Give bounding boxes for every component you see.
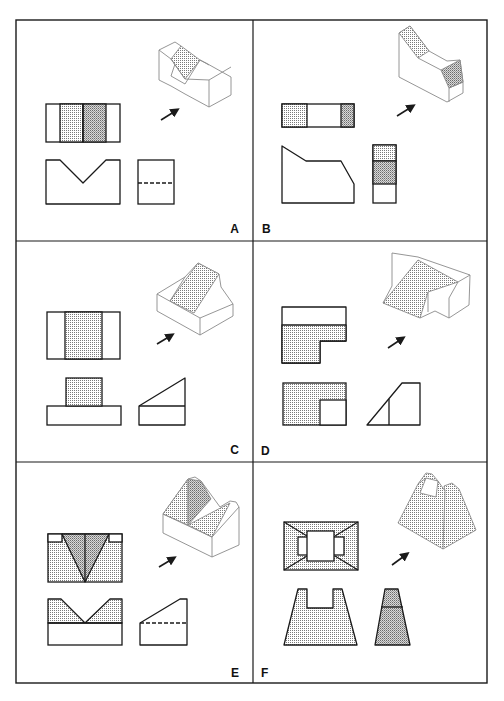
top-view	[46, 104, 120, 142]
front-view	[48, 599, 122, 645]
outline-polygon	[367, 383, 420, 425]
front-view	[283, 383, 346, 425]
panel-label: C	[230, 443, 239, 457]
arrow	[157, 335, 172, 344]
front-view	[46, 160, 120, 204]
outline-rect	[47, 406, 121, 425]
outline-polygon	[282, 146, 354, 203]
direction-arrow-icon	[397, 106, 413, 116]
outline-rect	[65, 312, 102, 359]
outline-rect	[83, 104, 106, 142]
outline-polygon	[163, 479, 188, 525]
front-view	[284, 589, 357, 645]
outline-rect	[373, 145, 396, 161]
outline-rect	[48, 534, 62, 542]
panel-c: C	[47, 263, 239, 457]
outline-polygon	[46, 160, 120, 204]
outline-polygon	[284, 589, 357, 645]
outline-polygon	[375, 589, 410, 645]
outline-polygon	[140, 599, 187, 645]
panel-e: E	[48, 477, 239, 680]
isometric-view	[163, 477, 239, 557]
outline-polygon	[399, 26, 429, 58]
side-view	[373, 145, 396, 203]
isometric-view	[159, 42, 231, 107]
panel-a: A	[46, 42, 239, 236]
outline-rect	[109, 534, 122, 542]
panel-d: D	[261, 253, 470, 458]
side-view	[138, 160, 174, 204]
panel-label: B	[262, 222, 271, 236]
top-view	[282, 307, 346, 363]
arrow	[159, 558, 174, 567]
top-view	[284, 522, 358, 570]
arrow	[392, 554, 407, 565]
panel-label: A	[230, 222, 239, 236]
top-view	[282, 104, 354, 127]
direction-arrow-icon	[161, 110, 177, 120]
panel-f: F	[261, 473, 476, 680]
front-view	[282, 146, 354, 203]
outline-rect	[341, 104, 354, 127]
outline-rect	[373, 161, 396, 184]
edge-line	[159, 50, 171, 59]
edge-line	[209, 67, 231, 80]
direction-arrow-icon	[388, 338, 403, 348]
outline-rect	[48, 623, 122, 645]
outline-polygon	[159, 42, 231, 107]
edge-line	[458, 275, 470, 282]
isometric-view	[398, 473, 476, 549]
direction-arrow-icon	[392, 554, 407, 565]
edge-line	[200, 60, 209, 65]
outline-rect	[320, 400, 346, 425]
outline-polygon	[48, 599, 122, 623]
outline-rect	[66, 378, 102, 406]
arrow	[161, 110, 177, 120]
outline-polygon	[139, 378, 185, 425]
panel-label: E	[231, 666, 239, 680]
outline-rect	[138, 160, 174, 204]
top-view	[48, 534, 122, 582]
front-view	[47, 378, 121, 425]
direction-arrow-icon	[157, 335, 172, 344]
panel-label: F	[261, 666, 268, 680]
isometric-view	[399, 26, 463, 102]
edge-line	[185, 79, 209, 80]
outline-rect	[282, 104, 307, 127]
outline-rect	[60, 104, 83, 142]
side-view	[375, 589, 410, 645]
side-view	[140, 599, 187, 645]
direction-arrow-icon	[159, 558, 174, 567]
orthographic-projection-sheet: ABCDEF	[0, 0, 504, 701]
outline-polygon	[282, 325, 346, 363]
panels: ABCDEF	[46, 26, 476, 680]
isometric-view	[383, 253, 470, 318]
panel-label: D	[261, 444, 270, 458]
panel-b: B	[262, 26, 463, 236]
arrow	[397, 106, 413, 116]
top-view	[47, 312, 120, 359]
outline-rect	[307, 531, 334, 561]
edge-line	[200, 304, 233, 318]
outline-polygon	[383, 260, 458, 318]
outline-polygon	[171, 46, 200, 79]
isometric-view	[157, 263, 233, 335]
side-view	[367, 383, 420, 425]
edge-line	[418, 58, 441, 70]
side-view	[139, 378, 185, 425]
arrow	[388, 338, 403, 348]
